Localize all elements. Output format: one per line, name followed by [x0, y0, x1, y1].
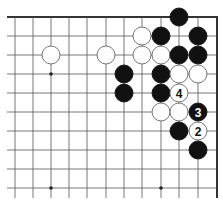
- white-stone-icon: [170, 65, 188, 83]
- black-stone-icon: [170, 122, 188, 140]
- move-number-label: 4: [176, 87, 183, 101]
- black-stone-icon: [115, 65, 133, 83]
- white-stone-icon: [42, 46, 60, 64]
- stones: 432: [42, 8, 207, 159]
- white-stone: 4: [170, 84, 188, 102]
- star-point-icon: [159, 186, 163, 190]
- black-stone-icon: [189, 27, 207, 45]
- black-stone: [115, 65, 133, 83]
- star-point-icon: [49, 72, 53, 76]
- white-stone: [152, 103, 170, 121]
- black-stone: [152, 65, 170, 83]
- black-stone-icon: [189, 46, 207, 64]
- black-stone: [189, 141, 207, 159]
- black-stone-icon: [152, 27, 170, 45]
- black-stone: 3: [189, 103, 207, 121]
- white-stone-icon: [133, 27, 151, 45]
- black-stone-icon: [170, 46, 188, 64]
- white-stone: [152, 46, 170, 64]
- black-stone-icon: [152, 84, 170, 102]
- black-stone: [152, 84, 170, 102]
- move-number-label: 2: [195, 125, 202, 139]
- white-stone: [133, 46, 151, 64]
- black-stone: [152, 27, 170, 45]
- white-stone: [97, 46, 115, 64]
- black-stone-icon: [189, 141, 207, 159]
- white-stone-icon: [189, 65, 207, 83]
- white-stone: 2: [189, 122, 207, 140]
- white-stone: [133, 27, 151, 45]
- white-stone: [170, 103, 188, 121]
- black-stone-icon: [152, 65, 170, 83]
- black-stone: [189, 27, 207, 45]
- white-stone-icon: [170, 103, 188, 121]
- white-stone-icon: [97, 46, 115, 64]
- white-stone-icon: [152, 46, 170, 64]
- white-stone-icon: [152, 103, 170, 121]
- go-board: 432: [0, 0, 223, 210]
- black-stone: [170, 122, 188, 140]
- black-stone-icon: [115, 84, 133, 102]
- move-number-label: 3: [195, 106, 202, 120]
- white-stone: [170, 65, 188, 83]
- black-stone: [170, 8, 188, 26]
- black-stone: [115, 84, 133, 102]
- star-point-icon: [49, 186, 53, 190]
- white-stone: [42, 46, 60, 64]
- black-stone: [170, 46, 188, 64]
- black-stone-icon: [170, 8, 188, 26]
- black-stone: [189, 46, 207, 64]
- white-stone: [189, 65, 207, 83]
- white-stone-icon: [133, 46, 151, 64]
